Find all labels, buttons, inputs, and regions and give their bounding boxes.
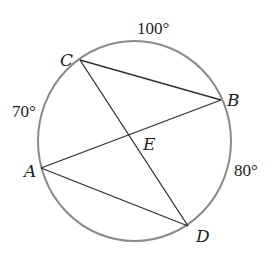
arc-label-ca: 70°	[12, 102, 36, 121]
circle	[38, 41, 231, 241]
point-label-c: C	[60, 50, 73, 70]
chord-ab	[41, 100, 221, 168]
point-label-e: E	[142, 134, 156, 154]
circle-chord-diagram: C B A D E 100° 70° 80°	[0, 0, 279, 262]
point-label-b: B	[226, 90, 240, 110]
point-label-d: D	[195, 226, 210, 246]
chord-cb	[80, 60, 221, 100]
point-label-a: A	[22, 161, 36, 181]
arc-label-cb: 100°	[137, 19, 169, 38]
chord-cd	[80, 60, 188, 226]
chord-ad	[41, 168, 188, 226]
arc-label-bd: 80°	[234, 161, 258, 180]
